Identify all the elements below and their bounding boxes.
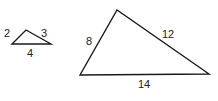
large-triangle: 8 12 14	[80, 10, 209, 90]
large-triangle-shape	[80, 10, 209, 75]
small-triangle-right-side-label: 3	[41, 27, 47, 39]
small-triangle-left-side-label: 2	[4, 27, 10, 39]
large-triangle-right-side-label: 12	[162, 28, 174, 40]
large-triangle-left-side-label: 8	[86, 35, 92, 47]
large-triangle-bottom-side-label: 14	[138, 78, 150, 90]
diagram-canvas: 2 3 4 8 12 14	[0, 0, 218, 101]
small-triangle: 2 3 4	[4, 27, 51, 59]
small-triangle-bottom-side-label: 4	[27, 47, 33, 59]
